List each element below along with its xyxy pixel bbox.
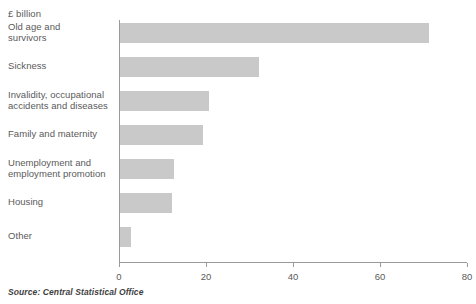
category-label-6: Housing xyxy=(8,196,120,208)
bar-row xyxy=(120,57,259,77)
bar-7 xyxy=(120,227,131,247)
x-axis-tick xyxy=(206,263,207,267)
bar-2 xyxy=(120,57,259,77)
bar-row xyxy=(120,159,174,179)
bar-chart-figure: £ billion Old age andsurvivorsSicknessIn… xyxy=(0,0,476,304)
x-axis-tick xyxy=(293,263,294,267)
x-axis-tick-label: 20 xyxy=(201,271,212,282)
bar-5 xyxy=(120,159,174,179)
x-axis-tick-label: 0 xyxy=(116,271,121,282)
bar-row xyxy=(120,125,203,145)
bar-row xyxy=(120,193,172,213)
category-label-line: Unemployment and xyxy=(8,157,120,169)
category-label-line: Sickness xyxy=(8,60,120,72)
source-note: Source: Central Statistical Office xyxy=(8,287,144,297)
x-axis-tick-label: 40 xyxy=(288,271,299,282)
bar-row xyxy=(120,91,209,111)
category-label-1: Old age andsurvivors xyxy=(8,21,120,44)
category-label-line: Family and maternity xyxy=(8,128,120,140)
category-label-list: Old age andsurvivorsSicknessInvalidity, … xyxy=(8,20,116,263)
category-label-line: Housing xyxy=(8,196,120,208)
category-label-4: Family and maternity xyxy=(8,128,120,140)
x-axis-tick xyxy=(380,263,381,267)
bar-1 xyxy=(120,23,429,43)
category-label-line: accidents and diseases xyxy=(8,100,120,112)
chart-unit-caption: £ billion xyxy=(8,8,41,19)
bar-row xyxy=(120,23,429,43)
bars-group xyxy=(120,20,467,262)
category-label-line: employment promotion xyxy=(8,168,120,180)
bar-4 xyxy=(120,125,203,145)
category-label-line: survivors xyxy=(8,32,120,44)
category-label-2: Sickness xyxy=(8,60,120,72)
bar-row xyxy=(120,227,131,247)
plot-area: 020406080 xyxy=(119,20,467,263)
x-axis-tick xyxy=(467,263,468,267)
bar-6 xyxy=(120,193,172,213)
x-axis-tick-label: 60 xyxy=(375,271,386,282)
category-label-line: Other xyxy=(8,230,120,242)
category-label-line: Old age and xyxy=(8,21,120,33)
x-axis-tick xyxy=(119,263,120,267)
category-label-5: Unemployment andemployment promotion xyxy=(8,157,120,180)
x-axis-tick-label: 80 xyxy=(462,271,473,282)
category-label-line: Invalidity, occupational xyxy=(8,89,120,101)
bar-3 xyxy=(120,91,209,111)
category-label-3: Invalidity, occupationalaccidents and di… xyxy=(8,89,120,112)
category-label-7: Other xyxy=(8,230,120,242)
